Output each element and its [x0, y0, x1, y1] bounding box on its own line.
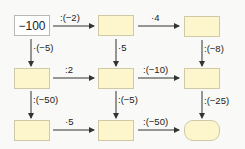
- box-r1c3[interactable]: [184, 16, 220, 37]
- op-label-r1c1-r2c1: ·(−5): [33, 43, 53, 53]
- op-label-r1c2-r2c2: ·5: [118, 43, 126, 53]
- box-r2c2[interactable]: [98, 68, 134, 89]
- op-label-r1c2-r1c3: ·4: [151, 13, 159, 23]
- op-label-r2c2-r2c3: :(−10): [143, 65, 168, 75]
- op-label-r3c2-r3c3: :(−50): [143, 117, 168, 127]
- op-label-r1c1-r1c2: :(−2): [60, 13, 80, 23]
- op-label-r2c1-r2c2: :2: [65, 65, 73, 75]
- op-label-r1c3-r2c3: :(−8): [204, 44, 224, 54]
- op-label-r2c1-r3c1: :(−50): [33, 95, 58, 105]
- op-label-r2c3-r3c3: :(−25): [204, 96, 229, 106]
- box-r3c2[interactable]: [98, 120, 134, 141]
- box-r3c1[interactable]: [14, 120, 50, 141]
- box-value: −100: [18, 19, 45, 33]
- box-r3c3-result[interactable]: [184, 120, 220, 141]
- box-r1c1: −100: [14, 15, 50, 36]
- box-r1c2[interactable]: [98, 15, 134, 36]
- box-r2c3[interactable]: [184, 68, 220, 89]
- op-label-r2c2-r3c2: :(−5): [118, 95, 138, 105]
- op-label-r3c1-r3c2: ·5: [65, 117, 73, 127]
- box-r2c1[interactable]: [14, 68, 50, 89]
- operation-diagram: −100 :(−2) ·4 :2 :(−10) ·5 :(−50) ·(−5) …: [0, 0, 245, 149]
